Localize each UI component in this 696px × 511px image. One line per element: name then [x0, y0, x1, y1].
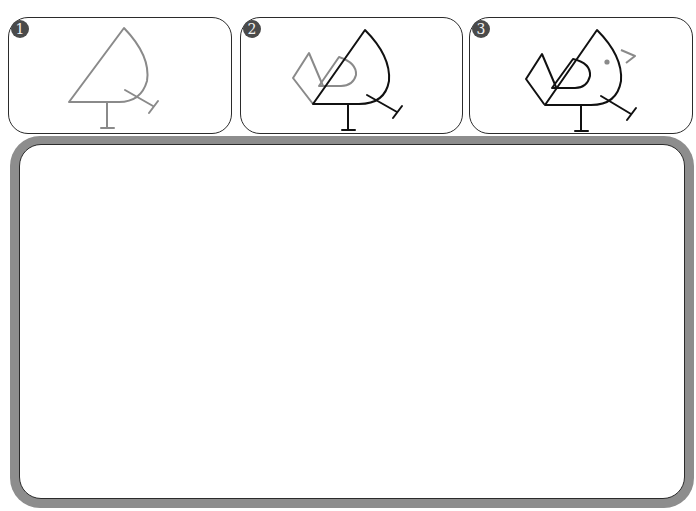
bird-leg-back [125, 90, 153, 106]
step-panel-2: 2 [240, 17, 463, 134]
bird-foot-back [393, 106, 402, 118]
bird-foot-back [627, 108, 636, 120]
bird-body-outline [313, 30, 389, 104]
bird-eye [604, 59, 609, 64]
bird-wing [319, 57, 356, 86]
step-panel-3: 3 [469, 17, 693, 134]
bird-body-outline [69, 28, 148, 102]
step-panel-1: 1 [8, 17, 232, 134]
bird-leg-back [601, 96, 631, 114]
bird-wing [552, 59, 590, 88]
canvas-frame [10, 136, 694, 508]
bird-body-outline [545, 30, 621, 105]
bird-step-3-drawing [470, 18, 694, 135]
drawing-canvas[interactable] [19, 144, 685, 499]
bird-leg-back [367, 95, 397, 112]
bird-beak [621, 50, 635, 63]
bird-step-2-drawing [241, 18, 464, 135]
bird-foot-back [149, 101, 158, 113]
bird-step-1-drawing [9, 18, 233, 135]
